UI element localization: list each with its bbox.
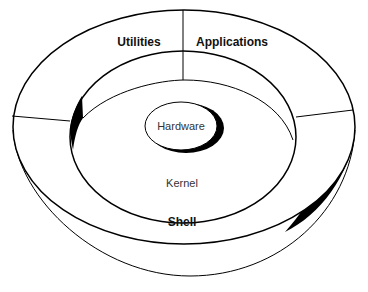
label-hardware: Hardware [157,120,205,132]
label-applications: Applications [196,35,268,49]
label-utilities: Utilities [117,35,161,49]
diagram-canvas: Hardware Kernel Shell Utilities Applicat… [0,0,368,292]
unix-layers-diagram: Hardware Kernel Shell Utilities Applicat… [0,0,368,292]
label-shell: Shell [168,215,197,229]
label-kernel: Kernel [166,177,198,189]
